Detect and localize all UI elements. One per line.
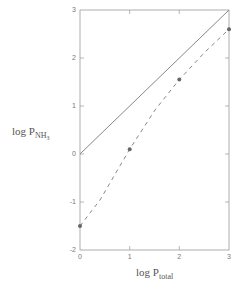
svg-text:0: 0 [78,253,82,260]
svg-text:3: 3 [227,253,231,260]
svg-text:1: 1 [128,253,132,260]
y-tick-labels: -2 -1 0 1 2 3 [70,6,76,253]
svg-text:1: 1 [72,102,76,109]
svg-text:0: 0 [72,150,76,157]
svg-text:2: 2 [72,54,76,61]
svg-text:-2: -2 [70,246,76,253]
svg-text:2: 2 [177,253,181,260]
y-axis-label: log PNH3 [12,125,50,141]
chart: 0 1 2 3 -2 -1 0 1 2 3 log PNH3 log Ptota… [0,0,240,284]
svg-text:-1: -1 [70,198,76,205]
svg-text:3: 3 [72,6,76,13]
dashed-curve [80,29,229,226]
x-tick-labels: 0 1 2 3 [78,253,231,260]
plot-frame [80,10,229,250]
x-axis-label: log Ptotal [136,266,174,281]
tick-marks [80,10,229,250]
solid-line [80,10,229,154]
